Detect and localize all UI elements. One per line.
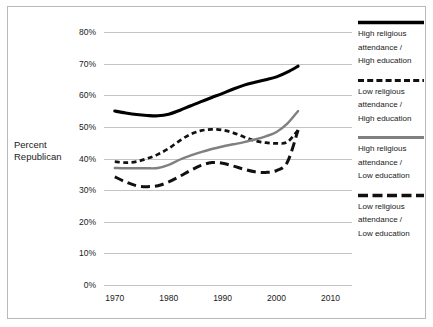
y-axis-tick-label: 20%: [62, 217, 96, 227]
legend-label-line: attendance /: [358, 213, 428, 227]
short-dashed-black-line-icon: [358, 76, 428, 85]
legend-label-line: attendance /: [358, 156, 428, 170]
series-line: [115, 66, 298, 116]
solid-black-line-icon: [358, 18, 428, 27]
legend-label-line: attendance /: [358, 98, 428, 112]
legend-label-line: High education: [358, 54, 428, 68]
x-axis-tick-labels: 19701980199020002010: [100, 293, 362, 313]
series-lines: [100, 25, 352, 295]
legend-label-line: Low religious: [358, 85, 428, 99]
y-axis-tick-label: 10%: [62, 248, 96, 258]
legend-entry: High religiousattendance /Low education: [358, 133, 428, 183]
legend-label-line: Low education: [358, 169, 428, 183]
y-axis-tick-label: 50%: [62, 122, 96, 132]
legend-label-line: attendance /: [358, 41, 428, 55]
legend-entry: Low religiousattendance /High education: [358, 76, 428, 126]
long-dashed-black-line-icon: [358, 191, 428, 200]
series-line: [115, 130, 298, 187]
chart-legend: High religiousattendance /High education…: [358, 18, 428, 248]
y-axis-tick-labels: 80%70%60%50%40%30%20%10%0%: [58, 25, 96, 295]
y-axis-tick-label: 30%: [62, 185, 96, 195]
legend-label-line: High religious: [358, 27, 428, 41]
solid-gray-line-icon: [358, 133, 428, 142]
legend-label-line: Low religious: [358, 200, 428, 214]
legend-label-line: High religious: [358, 142, 428, 156]
y-axis-tick-label: 80%: [62, 27, 96, 37]
legend-label: Low religiousattendance /High education: [358, 85, 428, 126]
legend-label-line: Low education: [358, 227, 428, 241]
legend-label: High religiousattendance /Low education: [358, 142, 428, 183]
x-axis-tick-label: 2010: [321, 293, 340, 303]
legend-label: High religiousattendance /High education: [358, 27, 428, 68]
x-axis-tick-label: 1990: [213, 293, 232, 303]
legend-entry: High religiousattendance /High education: [358, 18, 428, 68]
y-axis-tick-label: 60%: [62, 90, 96, 100]
legend-label: Low religiousattendance /Low education: [358, 200, 428, 241]
legend-label-line: High education: [358, 112, 428, 126]
y-axis-tick-label: 70%: [62, 59, 96, 69]
y-axis-tick-label: 40%: [62, 154, 96, 164]
legend-entry: Low religiousattendance /Low education: [358, 191, 428, 241]
x-axis-tick-label: 1970: [105, 293, 124, 303]
x-axis-tick-label: 1980: [159, 293, 178, 303]
y-axis-tick-label: 0%: [62, 280, 96, 290]
plot-area: [100, 25, 352, 295]
chart-figure: Percent Republican 80%70%60%50%40%30%20%…: [0, 0, 433, 327]
x-axis-tick-label: 2000: [267, 293, 286, 303]
